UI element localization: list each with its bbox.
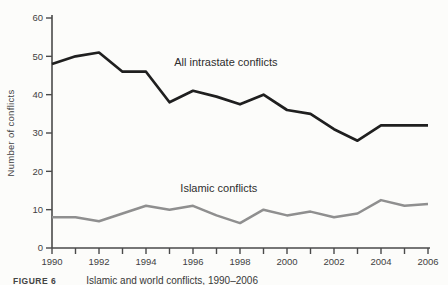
y-tick-label: 20: [32, 166, 43, 177]
figure-page: 0102030405060199019921994199619982000200…: [0, 0, 448, 285]
series-label: All intrastate conflicts: [174, 56, 278, 68]
conflict-line-chart: 0102030405060199019921994199619982000200…: [0, 0, 448, 272]
figure-caption: FIGURE 6Islamic and world conflicts, 199…: [13, 275, 443, 285]
figure-caption-label: FIGURE 6: [13, 276, 56, 285]
y-axis-title: Number of conflicts: [5, 89, 16, 176]
y-tick-label: 10: [32, 204, 43, 215]
y-tick-label: 0: [38, 242, 43, 253]
y-tick-label: 50: [32, 51, 43, 62]
series-line-islamic-conflicts: [52, 200, 428, 223]
x-tick-label: 1990: [41, 256, 62, 267]
y-tick-label: 60: [32, 12, 43, 23]
y-tick-label: 30: [32, 127, 43, 138]
x-tick-label: 1994: [135, 256, 156, 267]
series-label: Islamic conflicts: [180, 182, 258, 194]
x-tick-label: 1996: [182, 256, 203, 267]
x-tick-label: 2000: [276, 256, 297, 267]
x-tick-label: 2006: [417, 256, 438, 267]
x-tick-label: 1992: [88, 256, 109, 267]
figure-caption-text: Islamic and world conflicts, 1990–2006: [86, 275, 258, 285]
y-tick-label: 40: [32, 89, 43, 100]
x-tick-label: 2002: [323, 256, 344, 267]
x-tick-label: 2004: [370, 256, 391, 267]
x-tick-label: 1998: [229, 256, 250, 267]
